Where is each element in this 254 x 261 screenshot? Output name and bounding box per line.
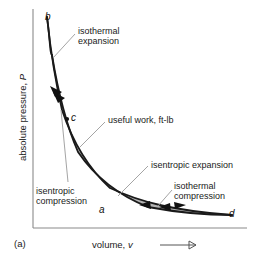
leader-useful-work	[79, 122, 105, 148]
annotation-isothermal-compression: isothermal compression	[174, 181, 225, 202]
annotation-isentropic-expansion: isentropic expansion	[151, 160, 233, 170]
annotation-isothermal-expansion: isothermal expansion	[78, 26, 120, 47]
annotation-isentropic-compression: isentropic compression	[36, 186, 87, 207]
annotation-useful-work: useful work, ft-lb	[108, 115, 174, 125]
point-c-marker	[65, 117, 69, 121]
point-label-a: a	[99, 204, 105, 216]
pv-diagram-figure: b c a d isothermal expansion useful work…	[0, 0, 254, 261]
y-axis-label: absolute pressure, P	[18, 47, 29, 187]
x-axis-label: volume, v	[92, 240, 133, 251]
y-axis-label-symbol	[17, 80, 28, 83]
arrowhead-lower-right	[174, 202, 186, 209]
point-label-d: d	[229, 208, 235, 220]
leader-isothermal-expansion	[53, 34, 75, 58]
point-label-c: c	[71, 112, 76, 124]
point-label-b: b	[45, 11, 51, 23]
y-axis-label-symbol-p: P	[17, 74, 28, 80]
leader-isentropic-expansion	[118, 166, 148, 196]
y-axis-label-text: absolute pressure,	[17, 83, 28, 161]
x-axis-label-text: volume,	[92, 239, 125, 250]
figure-caption: (a)	[14, 239, 26, 250]
x-axis-label-symbol: v	[128, 239, 133, 250]
pv-diagram-canvas	[0, 0, 254, 261]
